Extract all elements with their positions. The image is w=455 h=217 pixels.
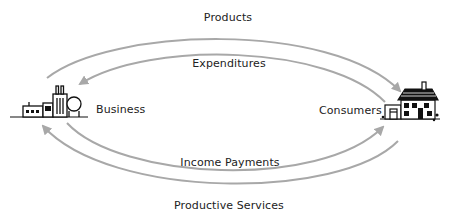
diagram-canvas: [0, 0, 455, 217]
productive-services-arrow: [43, 126, 398, 184]
products-label: Products: [204, 11, 252, 24]
business-label: Business: [96, 103, 145, 116]
expenditures-label: Expenditures: [192, 57, 265, 70]
house-icon: [380, 82, 440, 121]
factory-icon: [10, 86, 88, 117]
income-payments-label: Income Payments: [180, 156, 279, 169]
productive-services-label: Productive Services: [174, 199, 284, 212]
circular-flow-diagram: Products Expenditures Business Consumers…: [0, 0, 455, 217]
consumers-label: Consumers: [319, 104, 382, 117]
